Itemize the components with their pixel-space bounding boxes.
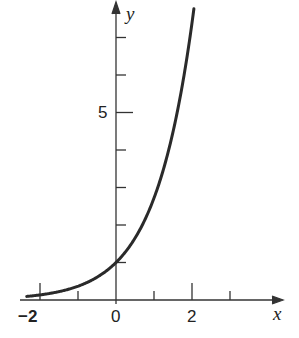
x-tick-label-2: 2	[187, 308, 196, 325]
exp-curve	[27, 9, 194, 297]
y-axis-arrow-icon	[112, 2, 120, 14]
x-tick-label-0: 0	[111, 308, 120, 325]
exponential-plot	[0, 0, 299, 338]
axes	[20, 2, 283, 304]
y-tick-label-5: 5	[98, 104, 107, 121]
x-tick-label-neg2: −2	[18, 308, 37, 325]
y-axis-label: y	[126, 4, 134, 23]
x-axis-label: x	[273, 304, 281, 323]
